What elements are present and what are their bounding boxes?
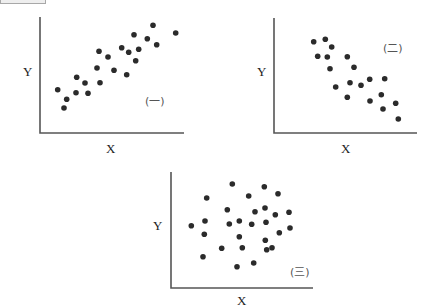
data-point xyxy=(333,84,339,90)
panel-3-tag: (三) xyxy=(290,266,310,279)
data-point xyxy=(240,245,246,251)
panel-3-points xyxy=(189,181,293,269)
data-point xyxy=(251,260,257,266)
data-point xyxy=(230,181,236,187)
panel-2-axes xyxy=(274,18,417,133)
data-point xyxy=(264,247,270,253)
data-point xyxy=(269,245,275,251)
data-point xyxy=(82,80,88,86)
data-point xyxy=(327,66,333,72)
data-point xyxy=(55,87,61,93)
data-point xyxy=(131,32,137,38)
data-point xyxy=(325,54,331,60)
data-point xyxy=(263,238,269,244)
panel-2: Y X (二) xyxy=(257,18,417,156)
panel-2-y-label: Y xyxy=(257,64,267,79)
data-point xyxy=(249,222,255,228)
axis-lines xyxy=(40,17,184,133)
data-point xyxy=(136,47,142,53)
data-point xyxy=(227,221,233,227)
data-point xyxy=(219,246,225,252)
data-point xyxy=(287,225,293,231)
data-point xyxy=(263,220,269,226)
data-point xyxy=(234,264,240,270)
data-point xyxy=(126,50,132,56)
panel-1-y-label: Y xyxy=(23,64,33,79)
data-point xyxy=(204,195,210,201)
data-point xyxy=(61,105,67,111)
panel-1-x-label: X xyxy=(106,141,116,156)
data-point xyxy=(273,212,279,218)
panel-2-tag: (二) xyxy=(383,42,403,55)
data-point xyxy=(323,37,329,43)
panel-3-y-label: Y xyxy=(153,218,163,233)
data-point xyxy=(358,83,364,89)
axis-lines xyxy=(274,18,417,133)
data-point xyxy=(94,65,100,71)
data-point xyxy=(345,54,351,60)
panel-1-tag: (一) xyxy=(145,95,165,108)
data-point xyxy=(133,58,139,64)
data-point xyxy=(262,205,268,211)
data-point xyxy=(202,232,208,238)
data-point xyxy=(382,76,388,82)
data-point xyxy=(173,30,179,36)
data-point xyxy=(74,75,80,81)
data-point xyxy=(73,90,79,96)
data-point xyxy=(396,116,402,122)
data-point xyxy=(286,210,292,216)
panel-1-axes xyxy=(40,17,184,133)
data-point xyxy=(225,207,231,213)
data-point xyxy=(252,209,258,215)
data-point xyxy=(379,92,385,98)
data-point xyxy=(351,65,357,71)
data-point xyxy=(367,98,373,104)
scatter-plots-figure: Y X (一) Y X (二) Y X (三) xyxy=(0,0,433,307)
data-point xyxy=(262,184,268,190)
data-point xyxy=(246,193,252,199)
data-point xyxy=(189,223,195,229)
data-point xyxy=(202,218,208,224)
data-point xyxy=(345,95,351,101)
data-point xyxy=(237,234,243,240)
data-point xyxy=(85,91,91,97)
data-point xyxy=(393,101,399,107)
panel-2-x-label: X xyxy=(341,141,351,156)
data-point xyxy=(105,54,111,60)
data-point xyxy=(277,230,283,236)
data-point xyxy=(329,44,335,50)
data-point xyxy=(96,49,102,55)
data-point xyxy=(275,191,281,197)
data-point xyxy=(200,254,206,260)
data-point xyxy=(315,54,321,60)
data-point xyxy=(367,77,373,83)
data-point xyxy=(380,106,386,112)
data-point xyxy=(154,42,160,48)
panel-3: Y X (三) xyxy=(153,172,313,307)
data-point xyxy=(111,68,117,74)
data-point xyxy=(145,36,151,42)
data-point xyxy=(64,97,70,103)
data-point xyxy=(347,80,353,86)
data-point xyxy=(97,80,103,86)
data-point xyxy=(237,218,243,224)
panel-3-x-label: X xyxy=(237,293,247,307)
data-point xyxy=(119,45,125,51)
data-point xyxy=(124,72,130,78)
panel-1: Y X (一) xyxy=(23,17,184,156)
data-point xyxy=(311,39,317,45)
data-point xyxy=(150,23,156,29)
